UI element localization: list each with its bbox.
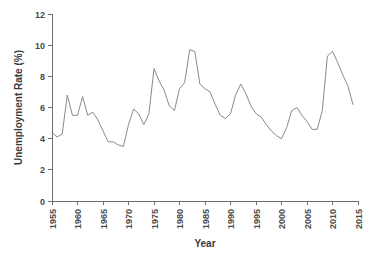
x-axis-tick-label: 1980	[175, 209, 185, 229]
x-axis-tick-label: 2010	[328, 209, 338, 229]
y-axis-tick-label: 12	[35, 10, 45, 20]
y-axis-tick-label: 4	[40, 134, 45, 144]
x-axis-tick-label: 1965	[99, 209, 109, 229]
x-axis-tick-label: 1960	[73, 209, 83, 229]
x-axis-tick-label: 1995	[252, 209, 262, 229]
y-axis-tick-label: 0	[40, 197, 45, 207]
x-axis-title: Year	[194, 238, 215, 249]
y-axis-tick-label: 6	[40, 103, 45, 113]
x-axis-tick-label: 2015	[354, 209, 364, 229]
y-axis-title: Unemployment Rate (%)	[13, 50, 24, 165]
y-axis-tick-label: 10	[35, 41, 45, 51]
x-axis-tick-label: 1990	[226, 209, 236, 229]
x-axis-tick-label: 1975	[150, 209, 160, 229]
y-axis-tick-label: 2	[40, 165, 45, 175]
x-axis-tick-label: 2000	[277, 209, 287, 229]
x-axis-tick-label: 2005	[303, 209, 313, 229]
x-axis-tick-label: 1970	[124, 209, 134, 229]
unemployment-line-chart: 024681012 195519601965197019751980198519…	[0, 0, 372, 261]
y-axis-tick-label: 8	[40, 72, 45, 82]
x-axis-tick-label: 1985	[201, 209, 211, 229]
chart-figure: 024681012 195519601965197019751980198519…	[0, 0, 372, 261]
x-axis-tick-label: 1955	[48, 209, 58, 229]
